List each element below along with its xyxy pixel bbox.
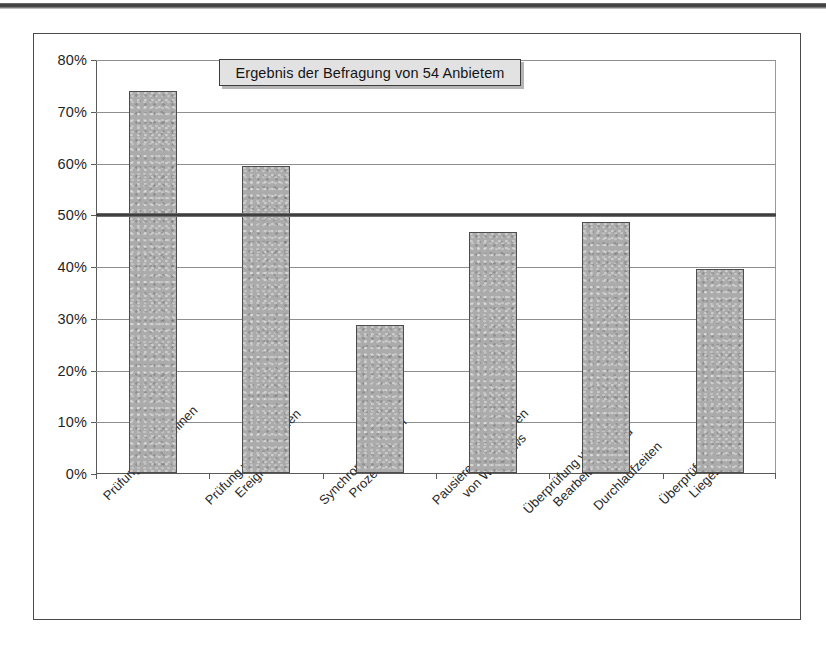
gridline	[96, 112, 776, 113]
x-axis-tick-mark	[323, 474, 324, 479]
bar	[129, 91, 177, 473]
gridline	[96, 164, 776, 165]
y-axis-tick-label: 30%	[57, 311, 87, 327]
gridline	[96, 371, 776, 372]
x-axis-tick-mark	[96, 474, 97, 479]
x-axis-tick-mark	[436, 474, 437, 479]
x-axis-tick-mark	[775, 474, 776, 479]
y-axis-tick-label: 0%	[66, 466, 87, 482]
reference-line-50-percent	[96, 213, 776, 217]
bar	[469, 232, 517, 473]
y-axis-tick-mark	[91, 371, 96, 372]
x-axis-tick-mark	[663, 474, 664, 479]
gridline	[96, 422, 776, 423]
y-axis-tick-mark	[91, 112, 96, 113]
gridline	[96, 267, 776, 268]
y-axis-tick-mark	[91, 60, 96, 61]
y-axis-tick-label: 60%	[57, 156, 87, 172]
plot-area: 80%70%60%50%40%30%20%10%0% Prüfung von T…	[96, 60, 776, 474]
y-axis-tick-label: 70%	[57, 104, 87, 120]
chart-frame: Ergebnis der Befragung von 54 Anbietem 8…	[33, 33, 801, 620]
scan-artifact-top-rule	[0, 3, 826, 8]
x-axis-tick-mark	[209, 474, 210, 479]
y-axis-tick-mark	[91, 164, 96, 165]
chart-title-box: Ergebnis der Befragung von 54 Anbietem	[219, 59, 521, 86]
y-axis-tick-label: 40%	[57, 259, 87, 275]
y-axis-tick-label: 10%	[57, 414, 87, 430]
bar	[696, 269, 744, 473]
y-axis-tick-mark	[91, 422, 96, 423]
y-axis-tick-label: 50%	[57, 207, 87, 223]
y-axis-tick-mark	[91, 319, 96, 320]
bar	[242, 166, 290, 473]
bar	[356, 325, 404, 473]
gridline	[96, 319, 776, 320]
y-axis-tick-label: 20%	[57, 363, 87, 379]
y-axis-tick-mark	[91, 267, 96, 268]
bar	[582, 222, 630, 473]
chart-title: Ergebnis der Befragung von 54 Anbietem	[235, 65, 504, 81]
y-axis-tick-label: 80%	[57, 52, 87, 68]
